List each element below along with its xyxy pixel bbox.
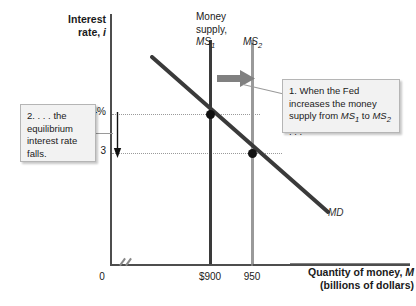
- callout-step2: 2. . . . the equilibrium interest rate f…: [20, 104, 96, 162]
- callout-step1-text-b: to: [359, 110, 372, 121]
- money-supply-2-label: MS2: [243, 36, 283, 53]
- x-axis-title-variable: M: [405, 266, 414, 278]
- money-supply-2-subscript: 2: [258, 41, 262, 50]
- money-supply-2-symbol: MS: [243, 36, 258, 47]
- x-tick-label-900: $900: [185, 271, 235, 282]
- money-supply-1-symbol: MS: [196, 36, 211, 47]
- equilibrium-point-new: [248, 149, 257, 158]
- money-supply-1-line: [209, 40, 212, 264]
- figure-canvas: Interest rate, i Quantity of money, M (b…: [0, 0, 416, 306]
- callout-step1-ms2: MS: [372, 110, 386, 121]
- callout-step2-leader-line: [95, 133, 113, 134]
- money-supply-shift-arrow-icon: [217, 70, 255, 87]
- guide-line-4-percent: [112, 114, 260, 115]
- callout-step1-ms1: MS: [341, 110, 355, 121]
- money-supply-1-subscript: 1: [211, 41, 215, 50]
- x-axis-title-rule: [290, 263, 410, 264]
- interest-rate-fall-arrow-icon: [112, 112, 123, 158]
- origin-label: 0: [95, 271, 109, 282]
- x-axis-title-line1: Quantity of money,: [308, 266, 402, 278]
- y-axis-title-line1: Interest: [68, 13, 106, 25]
- money-demand-label: MD: [328, 207, 344, 218]
- x-tick-label-950: 950: [229, 271, 275, 282]
- callout-step1-ms2-sub: 2: [387, 115, 391, 124]
- equilibrium-point-initial: [206, 110, 215, 119]
- callout-step1-text-c: . . .: [289, 126, 302, 137]
- x-axis-title: Quantity of money, M (billions of dollar…: [284, 266, 414, 292]
- y-axis-title: Interest rate, i: [40, 13, 106, 39]
- y-axis-title-variable: i: [103, 26, 106, 38]
- callout-step1: 1. When the Fed increases the money supp…: [282, 79, 400, 133]
- money-supply-title-line2: supply,: [196, 24, 227, 35]
- x-axis-title-line2: (billions of dollars): [320, 279, 414, 291]
- y-axis-title-line2: rate,: [78, 26, 100, 38]
- callout-step1-leader-line: [243, 84, 286, 95]
- money-supply-title-line1: Money: [196, 11, 226, 22]
